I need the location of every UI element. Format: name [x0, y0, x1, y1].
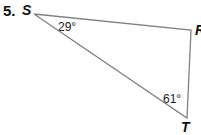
triangle-outline: [34, 14, 191, 118]
triangle-srt: [0, 0, 201, 135]
